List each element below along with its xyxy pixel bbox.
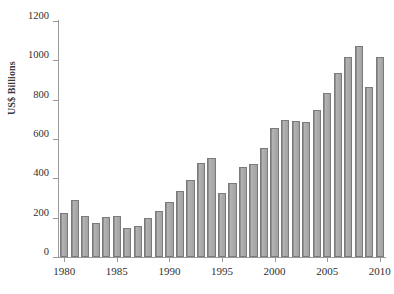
x-tick-label: 1980	[42, 265, 86, 277]
x-tick-label: 2000	[253, 265, 297, 277]
y-tick-label: 1200	[9, 15, 49, 16]
bar	[92, 223, 100, 257]
y-tick-label: 800	[9, 94, 49, 95]
bar	[323, 93, 331, 257]
x-tick-label: 1995	[200, 265, 244, 277]
bar	[239, 167, 247, 257]
bar	[113, 216, 121, 257]
y-tick-label: 1000	[9, 54, 49, 55]
bar	[228, 183, 236, 257]
bar	[260, 148, 268, 257]
bar	[123, 228, 131, 257]
x-tick-mark	[169, 257, 170, 262]
bar	[270, 128, 278, 257]
bar	[144, 218, 152, 257]
x-tick-mark	[275, 257, 276, 262]
y-tick-mark	[53, 257, 59, 258]
x-tick-mark	[327, 257, 328, 262]
bar	[302, 122, 310, 257]
bar	[376, 57, 384, 257]
x-tick-label: 1990	[147, 265, 191, 277]
bar	[81, 216, 89, 257]
x-tick-mark	[117, 257, 118, 262]
bar	[281, 120, 289, 257]
bar	[134, 226, 142, 257]
bar	[197, 163, 205, 257]
bar	[355, 46, 363, 257]
bar	[165, 202, 173, 257]
bar	[249, 164, 257, 257]
y-axis-title: US$ Billions	[6, 0, 17, 115]
bar-chart: US$ Billions 020040060080010001200 19801…	[0, 0, 394, 294]
bar	[71, 200, 79, 257]
bar	[176, 191, 184, 257]
bar	[313, 110, 321, 257]
x-tick-label: 2010	[358, 265, 394, 277]
x-tick-label: 1985	[95, 265, 139, 277]
y-tick-label: 200	[9, 212, 49, 213]
bar	[334, 73, 342, 257]
bar	[292, 121, 300, 257]
bar	[218, 193, 226, 257]
y-tick-label: 400	[9, 172, 49, 173]
y-tick-label: 0	[9, 251, 49, 252]
y-tick-label: 600	[9, 133, 49, 134]
x-tick-label: 2005	[305, 265, 349, 277]
plot-area	[59, 21, 385, 257]
bar	[207, 158, 215, 257]
bar	[102, 217, 110, 257]
x-tick-mark	[380, 257, 381, 262]
bar	[60, 213, 68, 257]
bar	[186, 180, 194, 257]
bar	[344, 57, 352, 257]
bar	[365, 87, 373, 257]
x-tick-mark	[64, 257, 65, 262]
x-tick-mark	[222, 257, 223, 262]
bar	[155, 211, 163, 257]
figure-bottom-margin	[0, 290, 394, 294]
